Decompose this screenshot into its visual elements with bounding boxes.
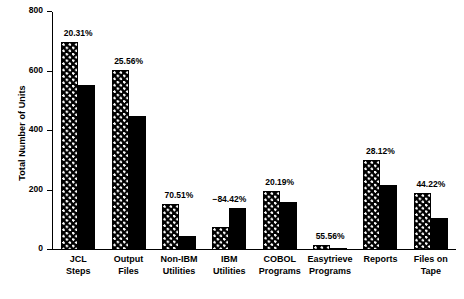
y-axis-tick-label: 400 (29, 124, 43, 134)
x-axis-category-labels: JCL StepsOutput FilesNon-IBM UtilitiesIB… (53, 254, 456, 277)
bar-group-percentage-label: 55.56% (316, 231, 345, 241)
bar-group-percentage-label: 70.51% (165, 190, 194, 200)
y-axis-tick-label: 200 (29, 184, 43, 194)
bar-pair (212, 12, 246, 250)
bar-series-2 (280, 202, 297, 250)
bar-series-1 (212, 227, 229, 250)
y-axis-tick: 800 (47, 11, 52, 12)
bar-chart: Total Number of Units 0200400600800 20.3… (0, 0, 464, 299)
bar-group: 28.12% (355, 12, 405, 250)
y-axis-tick-label: 0 (38, 243, 43, 253)
bar-group: 55.56% (305, 12, 355, 250)
y-axis-tick-label: 600 (29, 65, 43, 75)
bar-group: 20.19% (255, 12, 305, 250)
bar-group-percentage-label: 20.31% (64, 28, 93, 38)
bar-series-2 (330, 248, 347, 250)
bar-group: 70.51% (154, 12, 204, 250)
y-axis-tick: 600 (47, 71, 52, 72)
bar-group: 44.22% (406, 12, 456, 250)
bar-group: 25.56% (103, 12, 153, 250)
plot-area: 0200400600800 20.31%25.56%70.51%−84.42%2… (52, 12, 456, 250)
bar-pair (263, 12, 297, 250)
x-axis-category-label: JCL Steps (53, 254, 103, 277)
x-axis-category-label: Reports (355, 254, 405, 277)
bar-pair (363, 12, 397, 250)
bar-pair (61, 12, 95, 250)
y-axis-tick: 0 (47, 249, 52, 250)
bar-series-2 (431, 218, 448, 250)
y-axis-tick: 200 (47, 190, 52, 191)
bar-group-percentage-label: −84.42% (212, 194, 246, 204)
bar-series-1 (313, 245, 330, 250)
x-axis-category-label: Output Files (103, 254, 153, 277)
x-axis-category-label: Easytrieve Programs (305, 254, 355, 277)
bar-series-1 (112, 70, 129, 250)
bar-pair (414, 12, 448, 250)
y-axis-tick: 400 (47, 130, 52, 131)
bar-pair (162, 12, 196, 250)
bar-series-2 (78, 85, 95, 250)
bar-group: −84.42% (204, 12, 254, 250)
y-axis-tick-label: 800 (29, 5, 43, 15)
x-axis-category-label: COBOL Programs (255, 254, 305, 277)
bar-group-percentage-label: 20.19% (265, 177, 294, 187)
bar-pair (313, 12, 347, 250)
bar-group-percentage-label: 25.56% (114, 56, 143, 66)
bar-group: 20.31% (53, 12, 103, 250)
x-axis-category-label: Non-IBM Utilities (154, 254, 204, 277)
bar-series-2 (229, 208, 246, 250)
bar-series-1 (162, 204, 179, 250)
bar-series-2 (380, 185, 397, 250)
x-axis-category-label: IBM Utilities (204, 254, 254, 277)
bar-series-2 (179, 236, 196, 250)
bar-series-1 (414, 193, 431, 250)
bar-series-2 (129, 116, 146, 250)
bar-pair (112, 12, 146, 250)
bar-series-1 (363, 160, 380, 250)
x-axis-category-label: Files on Tape (406, 254, 456, 277)
bar-series-1 (61, 42, 78, 250)
y-axis-title: Total Number of Units (17, 43, 27, 223)
bar-group-percentage-label: 44.22% (416, 179, 445, 189)
bar-series-1 (263, 191, 280, 251)
bar-group-percentage-label: 28.12% (366, 146, 395, 156)
bar-groups: 20.31%25.56%70.51%−84.42%20.19%55.56%28.… (53, 12, 456, 250)
